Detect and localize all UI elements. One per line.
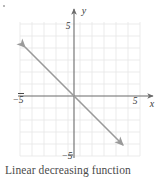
figure-caption: Linear decreasing function <box>0 162 165 183</box>
y-axis-label: y <box>81 5 87 16</box>
figure-linear-decreasing-function: −5 5 5 −5 x y Linear decreasing function <box>0 0 165 183</box>
x-axis-tick-label-positive-5: 5 <box>133 96 138 106</box>
y-axis-tick-label-positive-5: 5 <box>66 21 71 31</box>
axes <box>18 9 153 158</box>
grid-lines <box>20 22 140 156</box>
x-axis-tick-label-negative-5: −5 <box>12 95 23 105</box>
coordinate-plane-svg: −5 5 5 −5 x y <box>0 0 165 162</box>
x-axis-label: x <box>149 98 155 109</box>
plot-area: −5 5 5 −5 x y <box>0 0 165 162</box>
y-axis-tick-label-negative-5: −5 <box>61 151 72 161</box>
tick-marks <box>18 94 73 156</box>
